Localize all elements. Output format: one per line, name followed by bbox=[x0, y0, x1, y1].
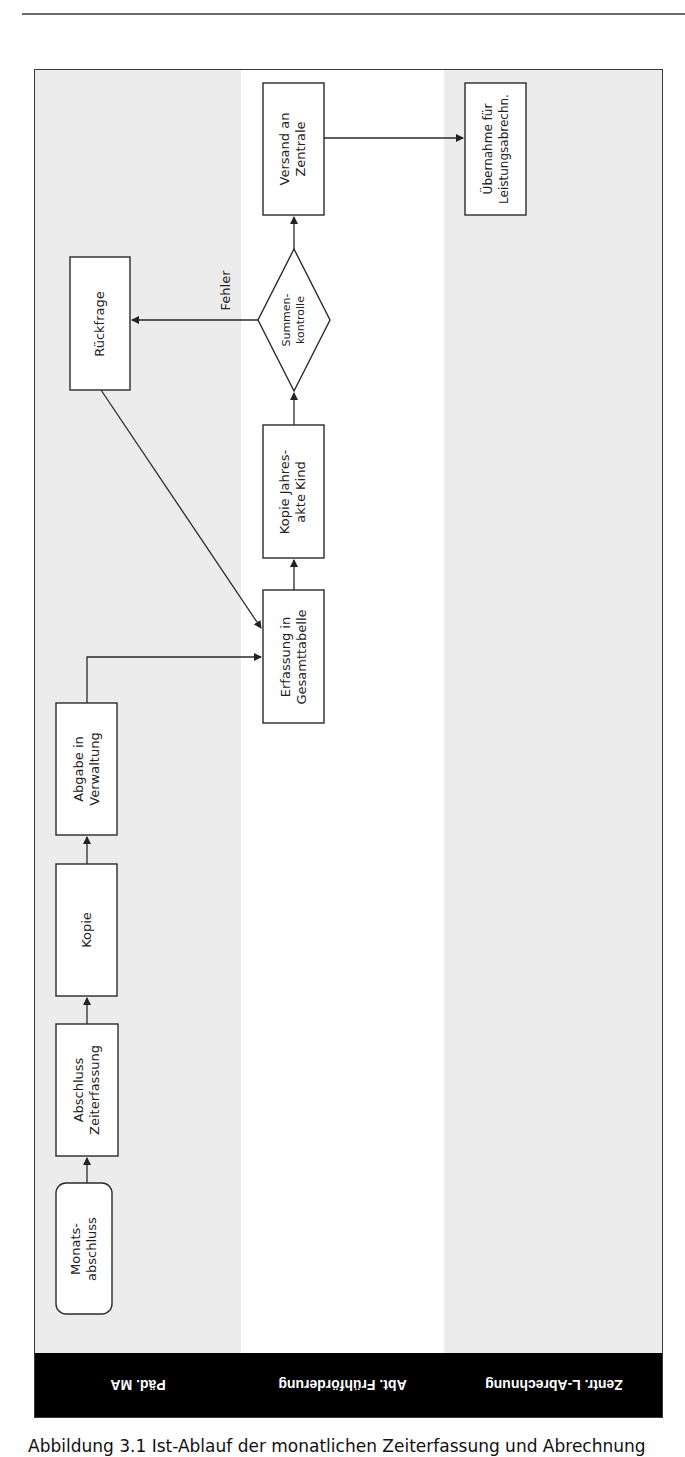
node-summenkontrolle-label: Summen- kontrolle bbox=[280, 293, 308, 346]
node-kopie-jahresakte: Kopie Jahres- akte Kind bbox=[263, 425, 324, 558]
node-abschluss-zeiterfassung-label: Abschluss Zeiterfassung bbox=[71, 1045, 103, 1135]
node-kopie-jahresakte-label: Kopie Jahres- akte Kind bbox=[278, 449, 310, 533]
node-kopie: Kopie bbox=[56, 864, 117, 996]
lane-label-zentr-abrechnung: Zentr. L-Abrechnung bbox=[444, 1353, 663, 1417]
node-monatsabschluss-label: Monats- abschluss bbox=[68, 1217, 100, 1281]
node-abschluss-zeiterfassung: Abschluss Zeiterfassung bbox=[56, 1024, 118, 1156]
node-versand-zentrale: Versand an Zentrale bbox=[263, 83, 324, 215]
node-versand-zentrale-label: Versand an Zentrale bbox=[278, 113, 310, 186]
figure-caption: Abbildung 3.1 Ist-Ablauf der monatlichen… bbox=[28, 1436, 685, 1456]
lane-label-paed-ma: Päd. MA bbox=[35, 1353, 241, 1417]
node-abgabe-verwaltung: Abgabe in Verwaltung bbox=[56, 703, 117, 835]
lane-label-abt-fruehfoerderung: Abt. Frühförderung bbox=[241, 1353, 444, 1417]
edge-label-fehler: Fehler bbox=[211, 270, 241, 310]
node-abgabe-verwaltung-label: Abgabe in Verwaltung bbox=[71, 732, 103, 805]
edge-label-fehler-text: Fehler bbox=[219, 270, 234, 310]
node-uebernahme-label: Übernahme für Leistungsabrechn. bbox=[480, 94, 512, 204]
lane-header-band: Päd. MA Abt. Frühförderung Zentr. L-Abre… bbox=[35, 1353, 662, 1417]
node-erfassung-gesamttabelle-label: Erfassung in Gesamttabelle bbox=[278, 609, 310, 704]
node-erfassung-gesamttabelle: Erfassung in Gesamttabelle bbox=[263, 590, 324, 723]
node-monatsabschluss: Monats- abschluss bbox=[56, 1183, 112, 1314]
top-rule bbox=[22, 13, 685, 15]
node-summenkontrolle: Summen- kontrolle bbox=[258, 249, 330, 391]
node-rueckfrage-label: Rückfrage bbox=[92, 291, 108, 357]
swimlane-diagram: Päd. MA Abt. Frühförderung Zentr. L-Abre… bbox=[34, 69, 663, 1418]
node-rueckfrage: Rückfrage bbox=[70, 257, 130, 390]
node-uebernahme: Übernahme für Leistungsabrechn. bbox=[465, 83, 526, 215]
node-kopie-label: Kopie bbox=[78, 912, 94, 948]
